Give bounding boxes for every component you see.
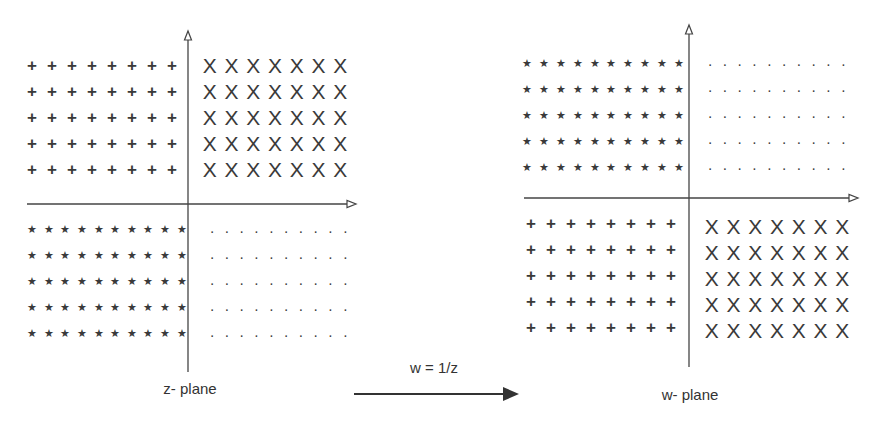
grid-symbol: ★	[653, 128, 670, 154]
grid-symbol: X	[788, 317, 810, 343]
grid-symbol: X	[723, 239, 745, 265]
grid-symbol: ·	[718, 131, 733, 157]
grid-symbol: ★	[670, 154, 687, 180]
w-quadrant-bottom-right: XXXXXXXXXXXXXXXXXXXXXXXXXXXXXXXXXXX	[701, 213, 853, 343]
grid-symbol: +	[661, 314, 681, 340]
grid-symbol: ★	[553, 50, 570, 76]
grid-symbol: ·	[703, 105, 718, 131]
grid-symbol: X	[831, 291, 853, 317]
grid-symbol: ★	[586, 76, 603, 102]
grid-symbol: +	[561, 262, 581, 288]
grid-symbol: ★	[620, 128, 637, 154]
grid-symbol: ·	[703, 157, 718, 183]
grid-symbol: ★	[569, 154, 586, 180]
grid-symbol: X	[766, 317, 788, 343]
w-imaginary-arrowhead-icon	[686, 25, 693, 34]
grid-symbol: ★	[536, 76, 553, 102]
grid-symbol: +	[641, 314, 661, 340]
grid-symbol: ·	[792, 53, 807, 79]
grid-symbol: ·	[777, 131, 792, 157]
grid-symbol: ★	[620, 102, 637, 128]
grid-symbol: X	[788, 213, 810, 239]
grid-symbol: X	[831, 265, 853, 291]
grid-symbol: +	[581, 314, 601, 340]
grid-symbol: ·	[703, 131, 718, 157]
grid-symbol: X	[701, 291, 723, 317]
grid-symbol: ★	[637, 154, 654, 180]
grid-symbol: +	[521, 288, 541, 314]
grid-symbol: ·	[762, 131, 777, 157]
grid-symbol: +	[541, 262, 561, 288]
grid-symbol: ·	[836, 79, 851, 105]
grid-symbol: X	[810, 317, 832, 343]
grid-symbol: ·	[821, 79, 836, 105]
grid-symbol: X	[701, 239, 723, 265]
grid-symbol: +	[601, 314, 621, 340]
grid-symbol: X	[766, 291, 788, 317]
grid-symbol: +	[521, 210, 541, 236]
grid-symbol: +	[521, 314, 541, 340]
grid-symbol: ·	[718, 53, 733, 79]
grid-symbol: +	[661, 210, 681, 236]
grid-symbol: ·	[733, 105, 748, 131]
grid-symbol: ·	[777, 53, 792, 79]
grid-symbol: ·	[836, 105, 851, 131]
grid-symbol: ★	[519, 154, 536, 180]
grid-symbol: +	[621, 288, 641, 314]
grid-symbol: +	[661, 262, 681, 288]
grid-symbol: +	[601, 262, 621, 288]
grid-symbol: ★	[670, 102, 687, 128]
grid-symbol: X	[744, 239, 766, 265]
grid-symbol: ★	[569, 76, 586, 102]
grid-symbol: ★	[653, 50, 670, 76]
grid-symbol: ·	[762, 79, 777, 105]
grid-symbol: ·	[821, 105, 836, 131]
grid-symbol: +	[581, 210, 601, 236]
grid-symbol: ★	[519, 128, 536, 154]
grid-symbol: ·	[821, 53, 836, 79]
grid-symbol: +	[621, 210, 641, 236]
grid-symbol: +	[621, 236, 641, 262]
grid-symbol: ·	[777, 105, 792, 131]
grid-symbol: X	[701, 265, 723, 291]
grid-symbol: ·	[836, 157, 851, 183]
grid-symbol: ·	[807, 157, 822, 183]
grid-symbol: ★	[637, 76, 654, 102]
grid-symbol: ★	[536, 154, 553, 180]
grid-symbol: ·	[762, 53, 777, 79]
grid-symbol: ★	[586, 102, 603, 128]
grid-symbol: ·	[807, 79, 822, 105]
grid-symbol: ★	[536, 102, 553, 128]
grid-symbol: +	[521, 262, 541, 288]
grid-symbol: ·	[777, 79, 792, 105]
grid-symbol: ·	[821, 157, 836, 183]
grid-symbol: X	[701, 317, 723, 343]
grid-symbol: X	[831, 317, 853, 343]
grid-symbol: ★	[637, 128, 654, 154]
grid-symbol: X	[810, 291, 832, 317]
grid-symbol: +	[541, 236, 561, 262]
grid-symbol: ·	[792, 105, 807, 131]
grid-symbol: X	[766, 239, 788, 265]
w-plane: ★★★★★★★★★★★★★★★★★★★★★★★★★★★★★★★★★★★★★★★★…	[0, 0, 882, 436]
grid-symbol: ·	[747, 105, 762, 131]
grid-symbol: +	[561, 210, 581, 236]
grid-symbol: X	[831, 213, 853, 239]
grid-symbol: X	[788, 265, 810, 291]
grid-symbol: X	[810, 239, 832, 265]
grid-symbol: ·	[836, 131, 851, 157]
grid-symbol: ★	[603, 154, 620, 180]
grid-symbol: ★	[637, 102, 654, 128]
grid-symbol: +	[661, 288, 681, 314]
grid-symbol: +	[541, 314, 561, 340]
grid-symbol: +	[641, 236, 661, 262]
grid-symbol: ·	[733, 53, 748, 79]
grid-symbol: X	[723, 317, 745, 343]
grid-symbol: +	[541, 210, 561, 236]
grid-symbol: X	[744, 317, 766, 343]
w-quadrant-top-left: ★★★★★★★★★★★★★★★★★★★★★★★★★★★★★★★★★★★★★★★★…	[519, 50, 687, 180]
grid-symbol: ·	[703, 53, 718, 79]
grid-symbol: +	[521, 236, 541, 262]
grid-symbol: ★	[536, 128, 553, 154]
grid-symbol: X	[744, 265, 766, 291]
